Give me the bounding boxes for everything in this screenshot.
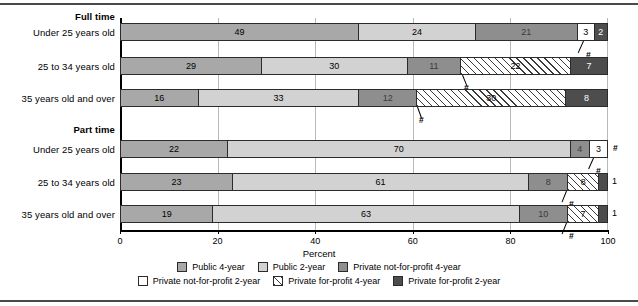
chart-container: Full time Under 25 years old 25 to 34 ye… [0, 0, 638, 306]
segment-public-4-year: 22 [121, 141, 228, 157]
segment-public-2-year: 61 [233, 174, 529, 190]
segment-private-fp-4-year: 30 [417, 90, 566, 106]
gridline-100 [607, 18, 608, 230]
x-tick-label-100: 100 [600, 236, 615, 246]
segment-public-2-year: 70 [228, 141, 571, 157]
x-tick-label-0: 0 [117, 236, 122, 246]
legend-row-2: Private not-for-profit 2-year Private fo… [0, 276, 638, 286]
y-axis-line [120, 18, 122, 230]
x-tick-label-40: 40 [310, 236, 320, 246]
footnote-marker-ft-35-plus: # [419, 116, 424, 125]
segment-private-nfp-4-year: 4 [571, 141, 590, 157]
legend-label-public-2-year: Public 2-year [273, 262, 326, 272]
legend-item-private-nfp-4-year[interactable]: Private not-for-profit 4-year [338, 262, 461, 272]
value-label-pt-25-34-outside: 1 [612, 177, 617, 186]
category-label-part-time-under-25: Under 25 years old [0, 144, 115, 155]
segment-private-fp-4-year: 7 [568, 206, 599, 222]
leader-line-pt-35-plus [562, 223, 567, 235]
segment-private-fp-4-year: 22 [461, 58, 571, 74]
x-axis-title: Percent [0, 248, 638, 259]
segment-public-4-year: 23 [121, 174, 233, 190]
footnote-marker-pt-35-plus: # [569, 232, 574, 241]
segment-private-fp-2-year: 7 [571, 58, 607, 74]
category-label-full-time-25-34: 25 to 34 years old [0, 61, 115, 72]
legend-label-private-fp-2-year: Private for-profit 2-year [408, 276, 500, 286]
legend-label-private-nfp-4-year: Private not-for-profit 4-year [353, 262, 461, 272]
legend-swatch-icon-private-nfp-4-year [338, 262, 348, 272]
x-tick-0 [120, 230, 121, 234]
legend-item-private-fp-2-year[interactable]: Private for-profit 2-year [393, 276, 500, 286]
category-label-part-time-35-plus: 35 years old and over [0, 209, 115, 220]
bar-part-time-under-25: 22 70 4 3 [120, 140, 608, 158]
group-title-full-time: Full time [0, 11, 115, 22]
bar-part-time-25-34: 23 61 8 8 [120, 173, 608, 191]
legend-label-private-nfp-2-year: Private not-for-profit 2-year [153, 276, 261, 286]
legend-item-public-4-year[interactable]: Public 4-year [177, 262, 245, 272]
segment-private-nfp-4-year: 8 [529, 174, 568, 190]
legend-item-public-2-year[interactable]: Public 2-year [258, 262, 326, 272]
x-tick-label-20: 20 [213, 236, 223, 246]
segment-public-2-year: 30 [262, 58, 408, 74]
legend-row-1: Public 4-year Public 2-year Private not-… [0, 262, 638, 272]
segment-private-fp-2-year: 2 [595, 24, 607, 40]
x-tick-100 [608, 230, 609, 234]
x-tick-label-60: 60 [408, 236, 418, 246]
x-axis-line [120, 230, 609, 232]
x-tick-80 [510, 230, 511, 234]
legend-swatch-icon-private-fp-2-year [393, 276, 403, 286]
segment-private-nfp-2-year: 3 [590, 141, 607, 157]
x-tick-60 [413, 230, 414, 234]
gridline-20 [218, 18, 219, 230]
segment-private-fp-2-year: 8 [566, 90, 607, 106]
bar-full-time-35-plus: 16 33 12 30 8 [120, 89, 608, 107]
x-tick-label-80: 80 [505, 236, 515, 246]
segment-private-nfp-2-year: 3 [578, 24, 595, 40]
bottom-rule [0, 300, 638, 302]
segment-public-4-year: 49 [121, 24, 359, 40]
chart-legend: Public 4-year Public 2-year Private not-… [0, 262, 638, 290]
value-label-pt-35-plus-outside: 1 [612, 209, 617, 218]
legend-item-private-fp-4-year[interactable]: Private for-profit 4-year [273, 276, 380, 286]
segment-private-fp-2-year [599, 174, 607, 190]
bar-full-time-25-34: 29 30 11 22 7 [120, 57, 608, 75]
footnote-marker-pt-under-25-outside: # [613, 144, 618, 153]
segment-private-nfp-4-year: 21 [476, 24, 578, 40]
segment-public-2-year: 24 [359, 24, 476, 40]
legend-label-public-4-year: Public 4-year [192, 262, 245, 272]
category-label-full-time-35-plus: 35 years old and over [0, 93, 115, 104]
leader-line-ft-under-25 [578, 41, 584, 53]
legend-swatch-icon-public-4-year [177, 262, 187, 272]
segment-private-fp-4-year: 8 [568, 174, 599, 190]
legend-swatch-icon-private-fp-4-year [273, 276, 283, 286]
gridline-80 [510, 18, 511, 230]
gridline-60 [413, 18, 414, 230]
legend-swatch-icon-public-2-year [258, 262, 268, 272]
bar-part-time-35-plus: 19 63 10 7 [120, 205, 608, 223]
segment-private-nfp-4-year: 12 [359, 90, 417, 106]
segment-public-2-year: 33 [199, 90, 359, 106]
segment-public-4-year: 16 [121, 90, 199, 106]
gridline-40 [315, 18, 316, 230]
segment-public-4-year: 19 [121, 206, 213, 222]
leader-line-pt-25-34 [562, 191, 567, 203]
segment-public-4-year: 29 [121, 58, 262, 74]
leader-line-pt-under-25 [588, 158, 594, 169]
top-rule [0, 3, 638, 5]
segment-private-nfp-4-year: 10 [520, 206, 569, 222]
legend-label-private-fp-4-year: Private for-profit 4-year [288, 276, 380, 286]
plot-area: 49 24 21 3 2 # 29 30 11 22 7 [120, 18, 608, 230]
legend-swatch-icon-private-nfp-2-year [138, 276, 148, 286]
group-title-part-time: Part time [0, 124, 115, 135]
bar-full-time-under-25: 49 24 21 3 2 [120, 23, 608, 41]
x-tick-20 [218, 230, 219, 234]
legend-item-private-nfp-2-year[interactable]: Private not-for-profit 2-year [138, 276, 261, 286]
category-label-part-time-25-34: 25 to 34 years old [0, 177, 115, 188]
segment-private-nfp-4-year: 11 [408, 58, 461, 74]
category-label-full-time-under-25: Under 25 years old [0, 27, 115, 38]
x-tick-40 [315, 230, 316, 234]
segment-public-2-year: 63 [213, 206, 519, 222]
segment-private-fp-2-year [599, 206, 607, 222]
